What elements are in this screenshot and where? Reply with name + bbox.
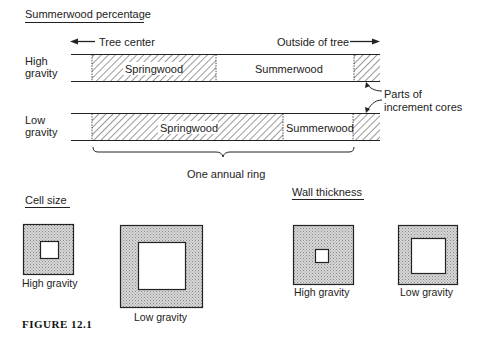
section-title-cell-size: Cell size	[25, 194, 67, 206]
section-title-summerwood-percentage: Summerwood percentage	[25, 8, 151, 20]
row-label-line2: gravity	[25, 126, 58, 138]
next-ring-band	[353, 114, 380, 141]
summerwood-percentage-section: Summerwood percentage Tree center Outsid…	[25, 8, 463, 180]
tree-center-label: Tree center	[99, 36, 155, 48]
wall-thickness-section: Wall thickness High gravity Low gravity	[292, 186, 458, 298]
cell-high-gravity: High gravity	[22, 225, 78, 290]
figure-canvas: Summerwood percentage Tree center Outsid…	[0, 0, 484, 337]
brace-icon	[93, 147, 354, 157]
outside-of-tree-indicator: Outside of tree	[277, 36, 380, 48]
cell-label: High gravity	[22, 277, 78, 289]
pointer-line	[367, 84, 382, 91]
row-label-line2: gravity	[25, 67, 58, 79]
cell-label: High gravity	[294, 286, 350, 298]
cell-label: Low gravity	[400, 286, 454, 298]
right-arrowhead-icon	[372, 39, 380, 45]
summerwood-label: Summerwood	[286, 122, 354, 134]
springwood-label: Springwood	[125, 63, 183, 75]
cell-lumen-icon	[139, 243, 186, 290]
annual-ring-brace: One annual ring	[93, 147, 354, 180]
wall-low-gravity: Low gravity	[399, 226, 458, 299]
section-title-wall-thickness: Wall thickness	[292, 186, 362, 198]
row-label-line1: High	[25, 55, 48, 67]
figure-caption: FIGURE 12.1	[22, 318, 92, 330]
cell-lumen-icon	[41, 242, 59, 259]
wall-high-gravity: High gravity	[294, 226, 354, 299]
outside-of-tree-label: Outside of tree	[277, 36, 349, 48]
cell-lumen-icon	[412, 239, 446, 274]
next-ring-band	[354, 55, 380, 82]
left-arrowhead-icon	[70, 39, 78, 45]
summerwood-label: Summerwood	[255, 63, 323, 75]
brace-label: One annual ring	[187, 168, 265, 180]
high-gravity-core: High gravity Springwood Summerwood	[25, 55, 380, 82]
cell-label: Low gravity	[134, 311, 188, 323]
increment-cores-annotation: Parts of increment cores	[365, 82, 463, 113]
row-label-line1: Low	[25, 114, 45, 126]
springwood-label: Springwood	[160, 122, 218, 134]
cell-low-gravity: Low gravity	[121, 226, 203, 324]
low-gravity-core: Low gravity Springwood Summerwood	[25, 114, 380, 141]
annotation-line1: Parts of	[384, 88, 423, 100]
cell-lumen-icon	[316, 250, 329, 263]
annotation-line2: increment cores	[384, 101, 463, 113]
tree-center-indicator: Tree center	[70, 36, 155, 48]
cell-size-section: Cell size High gravity Low gravity	[22, 194, 203, 323]
